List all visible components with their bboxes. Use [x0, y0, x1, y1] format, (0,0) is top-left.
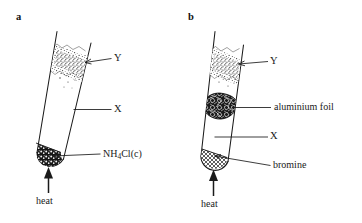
label-nh4cl-a-suffix: Cl(c) [121, 148, 142, 159]
aluminium-foil-plug-b [204, 93, 238, 119]
heat-arrow-a [44, 167, 53, 193]
label-bromine-b: bromine [273, 160, 306, 170]
label-y-b: Y [270, 56, 278, 67]
panel-label-b: b [188, 12, 194, 23]
label-x-a: X [114, 104, 122, 115]
vapour-cloud-b [209, 48, 242, 87]
label-aluminium-foil-b: aluminium foil [274, 102, 334, 112]
label-heat-a: heat [36, 196, 53, 206]
figure-root: a b Y X NH4Cl(c) heat Y aluminium foil X… [0, 0, 362, 223]
panel-b-graphics [201, 32, 271, 197]
panel-a-graphics [36, 32, 112, 194]
solid-nh4cl-a [36, 143, 62, 167]
label-nh4cl-a: NH4Cl(c) [103, 149, 142, 160]
label-y-a: Y [114, 53, 122, 64]
label-x-b: X [270, 131, 278, 142]
panel-label-a: a [16, 12, 21, 23]
label-nh4cl-a-prefix: NH [103, 148, 117, 159]
label-heat-b: heat [201, 199, 218, 209]
heat-arrow-b [209, 170, 218, 197]
vapour-cloud-a [50, 45, 90, 88]
